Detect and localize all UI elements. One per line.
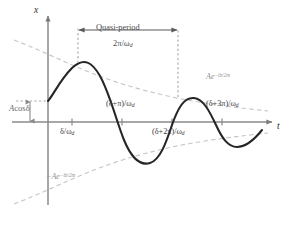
tick-delta-plus-3pi-over-omega-d-main: (δ+3π)/ω [206,99,236,108]
tick-delta-plus-pi-over-omega-d-sub: d [132,102,135,108]
tick-delta-plus-pi-over-omega-d-main: (δ+π)/ω [106,99,132,108]
envelope-lower-exponent: −tb/2m [60,172,76,178]
envelope-upper-label: Ae−tb/2m [206,73,230,81]
envelope-lower-label: −Ae−tb/2m [46,173,75,181]
tick-delta-over-omega-d: δ/ωd [60,128,74,137]
tick-delta-plus-pi-over-omega-d: (δ+π)/ωd [106,100,135,109]
envelope-lower-base: −Ae [46,172,60,181]
tick-delta-over-omega-d-sub: d [72,130,75,136]
figure-canvas [0,0,291,225]
x-axis-label: t [277,122,280,132]
tick-delta-plus-2pi-over-omega-d-main: (δ+2π)/ω [152,127,182,136]
tick-delta-plus-2pi-over-omega-d-sub: d [182,130,185,136]
tick-delta-plus-3pi-over-omega-d-sub: d [236,102,239,108]
tick-delta-plus-3pi-over-omega-d: (δ+3π)/ωd [206,100,239,109]
tick-delta-plus-2pi-over-omega-d: (δ+2π)/ωd [152,128,185,137]
damped-oscillation-figure: x t Quasi-period 2π/ωd Acosδ Ae−tb/2m −A… [0,0,291,225]
envelope-upper-exponent: −tb/2m [214,72,230,78]
amplitude-label: Acosδ [9,104,30,113]
tick-delta-over-omega-d-main: δ/ω [60,127,72,136]
quasi-period-omega-sub: d [130,42,133,48]
y-axis-label: x [34,6,38,16]
amplitude-delta: δ [26,103,30,113]
amplitude-cos: cos [14,103,25,113]
quasi-period-label: Quasi-period [96,24,140,32]
quasi-period-value: 2π/ωd [113,40,133,49]
